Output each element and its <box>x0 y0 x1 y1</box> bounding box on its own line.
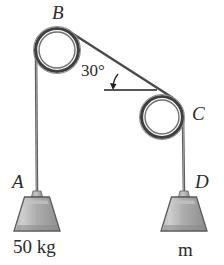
pulley-diagram: B C A D 30° 50 kg m <box>0 0 224 265</box>
weight-right-knob <box>179 191 190 197</box>
label-pulley-c: C <box>192 104 205 123</box>
rope-segment-left <box>36 50 37 198</box>
weight-left <box>14 191 60 231</box>
label-angle-30: 30° <box>81 62 105 79</box>
pulley-top <box>34 27 81 74</box>
weight-left-knob <box>32 191 43 197</box>
rope-segment-right <box>183 118 184 198</box>
label-mass-left: 50 kg <box>13 237 56 256</box>
diagram-canvas <box>0 0 224 265</box>
weight-left-highlight <box>25 201 48 205</box>
label-pulley-b: B <box>52 3 64 22</box>
angle-arrowhead <box>110 83 117 90</box>
weight-right-shadow <box>163 225 205 230</box>
label-hanger-a: A <box>12 172 24 191</box>
label-mass-right: m <box>178 240 193 259</box>
weight-right <box>161 191 207 231</box>
weight-right-highlight <box>172 201 195 205</box>
weight-left-shadow <box>16 225 58 230</box>
label-hanger-d: D <box>195 172 209 191</box>
pulley-right <box>140 95 185 140</box>
